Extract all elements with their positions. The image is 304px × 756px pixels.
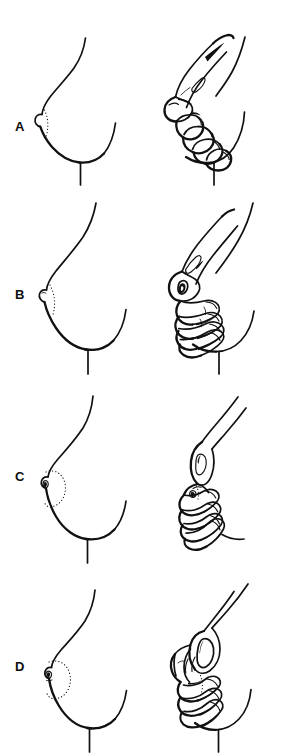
hand-grasping-breast-a (0, 0, 304, 189)
hand-grasping-breast-b (0, 189, 304, 378)
hand-grasping-breast-c (0, 378, 304, 567)
panel-row-a: A (0, 0, 304, 189)
figure-root: A (0, 0, 304, 756)
hand-grasping-breast-d (0, 567, 304, 756)
panel-row-b: B (0, 189, 304, 378)
panel-row-c: C (0, 378, 304, 567)
panel-row-d: D (0, 567, 304, 756)
